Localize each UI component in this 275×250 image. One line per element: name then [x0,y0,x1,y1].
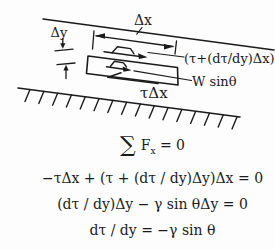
sum-rhs: = 0 [155,137,185,153]
free-surface-line [43,19,274,50]
dy-dimension: Δy [51,25,76,79]
dx-right-arrowhead [164,44,174,50]
force-balance-equation: −τΔx + (τ + (dτ / dy)Δy)Δx = 0 [30,165,275,191]
weight-arrow [107,61,132,72]
scanned-figure-page: { "figure": { "background": "#fdfdfd", "… [0,0,275,250]
weight-shaft [107,67,125,69]
summation-equation: ∑Fx = 0 [30,131,275,165]
dx-left-extension-tick [93,31,95,49]
weight-label-leader [134,71,192,81]
incline-hatching [25,90,237,129]
dx-label: Δx [134,12,152,28]
free-body-diagram: Δx Δy (τ+(dτ/dy)Δx) W sinθ τΔx [0,0,275,132]
bottom-shear-shaft [108,77,158,83]
sigma-symbol: ∑ [120,131,136,158]
top-shear-force-label: (τ+(dτ/dy)Δx) [184,51,275,66]
bottom-shear-force-label: τΔx [140,84,168,102]
dy-down-arrowhead [60,43,65,49]
dx-left-arrowhead [95,33,105,39]
dy-lower-tick [57,63,75,65]
top-shear-arrowhead [138,53,147,59]
dx-right-extension-tick [175,41,177,54]
top-shear-arrow [104,47,148,59]
equation-block: ∑Fx = 0 −τΔx + (τ + (dτ / dy)Δy)Δx = 0 (… [0,131,275,243]
dy-label: Δy [51,25,68,40]
weight-component-label: W sinθ [192,74,237,89]
bottom-shear-arrow [108,73,158,84]
sum-force-term: F [141,137,151,153]
incline-surface [18,88,240,129]
weight-hump [111,61,127,67]
dx-dimension: Δx [93,12,177,54]
simplified-equation: (dτ / dy)Δy − γ sin θΔy = 0 [30,191,275,217]
dx-dimension-line [96,36,173,47]
top-shear-label-leader [148,53,184,58]
dx-label-leader [137,28,142,35]
result-equation: dτ / dy = −γ sin θ [30,217,275,243]
dy-upper-tick [55,49,73,51]
incline-surface-line [18,88,240,117]
